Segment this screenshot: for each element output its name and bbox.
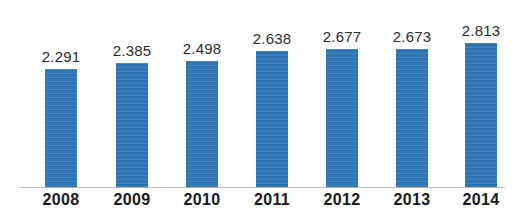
bar[interactable] — [256, 51, 288, 188]
bar[interactable] — [396, 49, 428, 188]
category-label-2013: 2013 — [394, 191, 431, 209]
bar-chart: 2.2912.3852.4982.6382.6772.6732.813 2008… — [0, 0, 529, 221]
bar[interactable] — [45, 69, 77, 188]
category-label-2008: 2008 — [43, 191, 80, 209]
category-label-2011: 2011 — [254, 191, 290, 209]
category-label-2012: 2012 — [324, 191, 361, 209]
category-axis-line — [20, 187, 505, 188]
bar[interactable] — [116, 63, 148, 188]
bar-value-label: 2.677 — [323, 28, 362, 45]
bar-group: 2.677 — [326, 49, 358, 188]
bar-value-label: 2.813 — [462, 22, 501, 39]
bar-group: 2.498 — [186, 61, 218, 188]
bar-value-label: 2.498 — [183, 40, 222, 57]
chart-plot-area: 2.2912.3852.4982.6382.6772.6732.813 — [0, 0, 529, 188]
bar[interactable] — [186, 61, 218, 188]
bar-group: 2.673 — [396, 49, 428, 188]
category-axis: 2008200920102011201220132014 — [0, 191, 529, 221]
bar-value-label: 2.291 — [42, 48, 81, 65]
bar[interactable] — [326, 49, 358, 188]
bar-value-label: 2.385 — [113, 42, 152, 59]
bar-group: 2.291 — [45, 69, 77, 188]
bar-group: 2.638 — [256, 51, 288, 188]
bar-group: 2.385 — [116, 63, 148, 188]
bar-value-label: 2.673 — [393, 28, 432, 45]
bar-group: 2.813 — [465, 43, 497, 188]
bar[interactable] — [465, 43, 497, 188]
category-label-2014: 2014 — [463, 191, 500, 209]
bar-value-label: 2.638 — [253, 30, 292, 47]
category-label-2010: 2010 — [184, 191, 221, 209]
category-label-2009: 2009 — [114, 191, 151, 209]
